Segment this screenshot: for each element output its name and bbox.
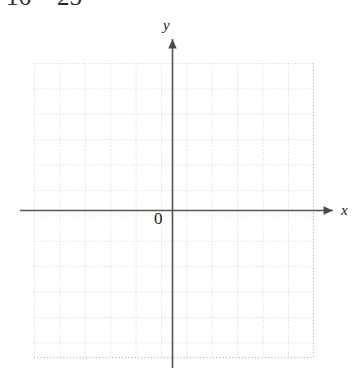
coordinate-grid-svg	[0, 0, 358, 386]
origin-label: 0	[154, 210, 163, 227]
x-axis-label: x	[341, 203, 348, 218]
y-axis-label: y	[163, 18, 170, 33]
coordinate-grid-figure: y x 0	[0, 0, 358, 386]
